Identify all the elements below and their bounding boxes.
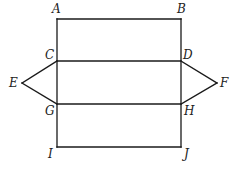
label-B: B bbox=[176, 2, 186, 16]
segment-DF bbox=[181, 61, 217, 83]
label-G: G bbox=[45, 104, 55, 118]
label-A: A bbox=[51, 2, 61, 16]
label-J: J bbox=[181, 147, 190, 161]
label-C: C bbox=[45, 48, 54, 62]
segment-HF bbox=[181, 83, 217, 104]
label-I: I bbox=[47, 147, 53, 161]
label-H: H bbox=[183, 104, 195, 118]
label-E: E bbox=[8, 76, 18, 90]
segment-EG bbox=[22, 83, 57, 104]
label-D: D bbox=[182, 48, 193, 62]
geometry-diagram: A B C D E F G H I J bbox=[0, 0, 239, 170]
label-F: F bbox=[219, 76, 229, 90]
diagram-svg: A B C D E F G H I J bbox=[0, 0, 239, 170]
segment-EC bbox=[22, 61, 57, 83]
